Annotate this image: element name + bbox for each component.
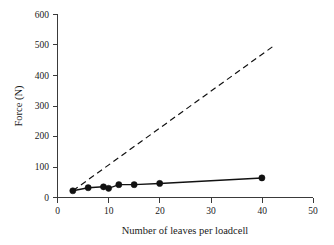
y-tick-label: 0	[44, 193, 49, 203]
y-axis-title: Force (N)	[13, 85, 25, 127]
x-tick-label: 0	[55, 206, 60, 216]
data-point-marker	[85, 185, 91, 191]
data-point-marker	[116, 182, 122, 188]
x-tick-label: 40	[258, 206, 268, 216]
data-point-marker	[106, 185, 112, 191]
x-tick-label: 20	[155, 206, 165, 216]
x-axis-title: Number of leaves per loadcell	[122, 225, 249, 236]
force-vs-leaves-scatter-plot: 0 100 200 300 400 500 600 0 10 20 30 40 …	[0, 0, 334, 245]
plot-background	[0, 0, 334, 245]
x-tick-label: 30	[206, 206, 216, 216]
data-point-marker	[131, 182, 137, 188]
x-tick-label: 10	[104, 206, 114, 216]
y-tick-label: 400	[35, 71, 50, 81]
x-tick-label: 50	[308, 206, 318, 216]
data-point-marker	[70, 188, 76, 194]
data-point-marker	[259, 175, 265, 181]
y-tick-label: 300	[35, 101, 50, 111]
y-tick-label: 100	[35, 162, 50, 172]
y-tick-label: 600	[35, 10, 50, 20]
data-point-marker	[157, 180, 163, 186]
y-tick-label: 200	[35, 131, 50, 141]
y-tick-label: 500	[35, 40, 50, 50]
chart-figure: 0 100 200 300 400 500 600 0 10 20 30 40 …	[0, 0, 334, 245]
